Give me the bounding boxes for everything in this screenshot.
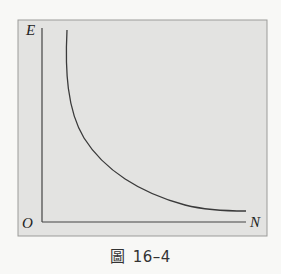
x-axis-label: N	[249, 214, 261, 230]
figure-diagram: E N O	[0, 0, 281, 274]
origin-label: O	[22, 215, 33, 231]
caption-number: 16–4	[133, 248, 171, 266]
figure-panel	[18, 20, 267, 236]
caption-prefix: 圖	[110, 245, 126, 266]
figure-caption: 圖16–4	[0, 245, 281, 266]
y-axis-label: E	[25, 22, 35, 38]
